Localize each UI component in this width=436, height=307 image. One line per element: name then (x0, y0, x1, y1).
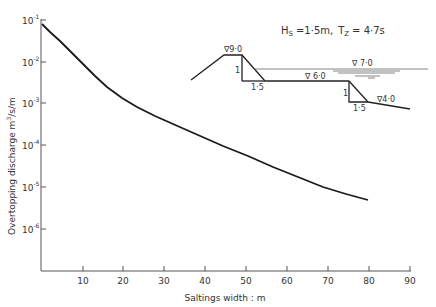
x-tick-label: 80 (363, 276, 375, 286)
x-axis-label: Saltings width : m (184, 293, 265, 303)
x-tick-label: 10 (77, 276, 89, 286)
y-axis-label: Overtopping discharge m3/s/m (5, 97, 17, 235)
y-tick-label: 10-3 (22, 96, 40, 109)
chart: 10-1 10-2 10-3 10-4 10-5 10-6 10 20 30 4… (0, 0, 436, 307)
x-tick-label: 60 (281, 276, 293, 286)
x-tick-label: 30 (158, 276, 170, 286)
y-tick-label: 10-6 (22, 222, 40, 235)
x-tick-label: 50 (240, 276, 252, 286)
y-tick-label: 10-2 (22, 55, 40, 68)
axes (41, 19, 411, 271)
discharge-curve (42, 24, 368, 200)
level-6-label: ∇ 6·0 (304, 72, 326, 81)
x-tick-label: 20 (117, 276, 129, 286)
level-4-label: ∇4·0 (376, 95, 395, 104)
x-tick-labels: 10 20 30 40 50 60 70 80 90 (77, 276, 416, 286)
slope-rise-label: 1 (343, 89, 348, 98)
x-tick-label: 40 (199, 276, 211, 286)
y-tick-label: 10-4 (22, 138, 40, 151)
slope-run-label: 1·5 (251, 83, 264, 92)
y-tick-label: 10-5 (22, 180, 40, 193)
y-tick-label: 10-1 (22, 13, 40, 26)
x-tick-label: 70 (322, 276, 334, 286)
y-tick-labels: 10-1 10-2 10-3 10-4 10-5 10-6 (22, 13, 40, 235)
slope-run-label: 1·5 (353, 104, 366, 113)
x-tick-label: 90 (404, 276, 416, 286)
level-7-label: ∇ 7·0 (351, 59, 373, 68)
wave-params-annotation: HS=1·5m,TZ= 4·7s (281, 25, 385, 38)
slope-rise-label: 1 (235, 66, 240, 75)
water-surface (254, 69, 428, 78)
level-9-label: ∇9·0 (223, 45, 242, 54)
